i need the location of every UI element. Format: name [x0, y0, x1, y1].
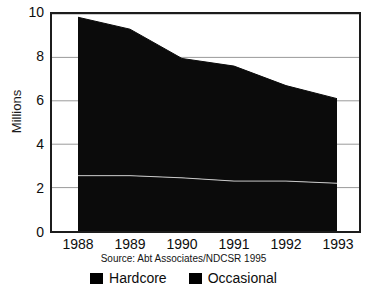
legend-label-hardcore: Hardcore: [109, 270, 167, 286]
legend-item-hardcore[interactable]: Hardcore: [90, 270, 167, 286]
y-tick-label-10: 10: [20, 5, 44, 19]
area-series-occasional: [78, 176, 337, 231]
x-tick-label-1991: 1991: [204, 236, 264, 252]
stacked-area-chart: Millions 10 8 6 4 2 0 1988 1989 1990 199…: [0, 0, 367, 291]
x-tick-label-1988: 1988: [48, 236, 108, 252]
y-tick-label-8: 8: [20, 49, 44, 63]
legend-label-occasional: Occasional: [208, 270, 277, 286]
y-tick-label-4: 4: [20, 137, 44, 151]
x-tick-label-1989: 1989: [100, 236, 160, 252]
x-tick-label-1990: 1990: [152, 236, 212, 252]
plot-area: [50, 12, 361, 233]
source-note: Source: Abt Associates/NDCSR 1995: [0, 253, 367, 265]
x-tick-label-1993: 1993: [308, 236, 367, 252]
legend-item-occasional[interactable]: Occasional: [189, 270, 277, 286]
y-tick-label-6: 6: [20, 93, 44, 107]
legend-swatch-hardcore: [90, 273, 103, 284]
legend-swatch-occasional: [189, 273, 202, 284]
area-series-hardcore: [78, 17, 337, 183]
chart-legend: Hardcore Occasional: [0, 268, 367, 288]
x-tick-label-1992: 1992: [256, 236, 316, 252]
plot-canvas: [52, 14, 359, 231]
y-tick-label-2: 2: [20, 181, 44, 195]
